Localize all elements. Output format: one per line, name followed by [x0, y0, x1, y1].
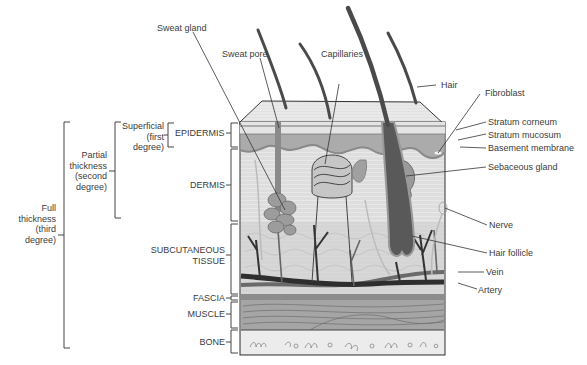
hair-label: Hair [441, 80, 458, 91]
subcutaneous-line2: TISSUE [150, 256, 225, 267]
sweat-gland-label: Sweat gland [157, 23, 207, 34]
skin-surface [240, 101, 445, 125]
artery-label: Artery [478, 285, 502, 296]
sebaceous-gland-label: Sebaceous gland [488, 162, 558, 173]
fascia-layer [241, 294, 444, 300]
epidermis-label: EPIDERMIS [175, 128, 225, 139]
subcutaneous-label: SUBCUTANEOUS TISSUE [150, 245, 225, 266]
superficial-line1: Superficial [114, 121, 164, 132]
partial-thickness-line1: Partial [62, 150, 107, 161]
stratum-mucosum-label: Stratum mucosum [488, 130, 561, 141]
superficial-line2: (first [114, 132, 164, 143]
subcutaneous-line1: SUBCUTANEOUS [150, 245, 225, 256]
muscle-label: MUSCLE [170, 309, 225, 320]
full-thickness-line1: Full [8, 203, 56, 214]
superficial-line3: degree) [114, 142, 164, 153]
partial-thickness-label: Partial thickness (second degree) [62, 150, 107, 192]
dermis-label: DERMIS [170, 180, 225, 191]
bone-layer [241, 330, 444, 354]
full-thickness-line4: degree) [8, 235, 56, 246]
capillaries-label: Capillaries [321, 49, 363, 60]
partial-thickness-line2: thickness [62, 161, 107, 172]
bone-label: BONE [170, 337, 225, 348]
basement-membrane-label: Basement membrane [488, 143, 574, 154]
hair-follicle-label: Hair follicle [489, 248, 533, 259]
full-thickness-label: Full thickness (third degree) [8, 203, 56, 245]
capillaries [312, 155, 352, 198]
superficial-label: Superficial (first degree) [114, 121, 164, 153]
fascia-label: FASCIA [170, 293, 225, 304]
sweat-pore-label: Sweat pore [222, 49, 268, 60]
vein-label: Vein [486, 267, 504, 278]
superficial-bracket [164, 123, 174, 147]
layer-brackets [226, 123, 238, 353]
fibroblast-label: Fibroblast [485, 88, 525, 99]
skin-layers-diagram: Full thickness (third degree) Partial th… [0, 0, 587, 365]
nerve-label: Nerve [489, 220, 513, 231]
partial-thickness-line4: degree) [62, 182, 107, 193]
full-thickness-line3: (third [8, 224, 56, 235]
stratum-corneum-label: Stratum corneum [488, 117, 557, 128]
partial-thickness-line3: (second [62, 171, 107, 182]
full-thickness-line2: thickness [8, 214, 56, 225]
